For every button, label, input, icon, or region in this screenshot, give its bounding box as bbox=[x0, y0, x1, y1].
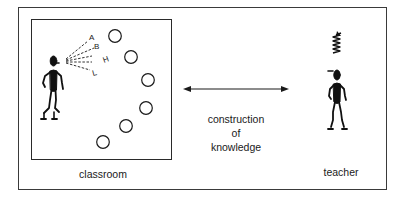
classroom-label: classroom bbox=[79, 168, 127, 180]
caption-line-3: knowledge bbox=[208, 140, 265, 154]
classroom-box bbox=[31, 19, 172, 160]
caption-line-1: construction bbox=[208, 112, 265, 126]
caption-line-2: of bbox=[208, 126, 265, 140]
construction-of-knowledge-caption: construction of knowledge bbox=[208, 112, 265, 154]
teacher-label: teacher bbox=[323, 166, 358, 178]
